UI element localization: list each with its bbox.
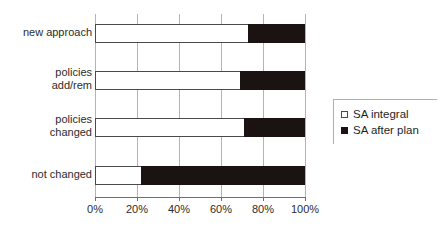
legend-entry-sa-integral: SA integral: [341, 106, 433, 122]
bar-row: [95, 71, 305, 90]
tick-mark-100: [305, 197, 306, 201]
bar-segment-sa-after-plan: [248, 24, 305, 43]
x-tick-label-20: 20%: [117, 203, 157, 216]
x-tick-label-40: 40%: [159, 203, 199, 216]
tick-mark-0: [95, 197, 96, 201]
white-square-icon: [341, 111, 348, 118]
bar-segment-sa-integral: [95, 166, 141, 185]
category-label-not-changed: not changed: [31, 168, 92, 181]
tick-mark-60: [221, 197, 222, 201]
category-label-new-approach: new approach: [23, 26, 92, 39]
bar-segment-sa-integral: [95, 118, 244, 137]
bar-segment-sa-integral: [95, 71, 240, 90]
tick-mark-40: [179, 197, 180, 201]
bar-row: [95, 166, 305, 185]
category-label-policies-changed: policies changed: [50, 113, 92, 139]
stacked-bar-chart: new approach policies add/rem policies c…: [0, 0, 439, 237]
gridline-100: [305, 14, 306, 197]
tick-mark-20: [137, 197, 138, 201]
x-tick-label-100: 100%: [285, 203, 325, 216]
legend-label-sa-after-plan: SA after plan: [353, 123, 419, 137]
bar-segment-sa-integral: [95, 24, 248, 43]
bar-segment-sa-after-plan: [141, 166, 305, 185]
bar-row: [95, 118, 305, 137]
x-tick-label-0: 0%: [75, 203, 115, 216]
tick-mark-80: [263, 197, 264, 201]
x-tick-label-60: 60%: [201, 203, 241, 216]
plot-area: [95, 14, 305, 197]
bar-row: [95, 24, 305, 43]
black-square-icon: [341, 127, 348, 134]
chart-legend: SA integral SA after plan: [333, 99, 437, 144]
bar-segment-sa-after-plan: [240, 71, 305, 90]
bar-segment-sa-after-plan: [244, 118, 305, 137]
x-axis-line: [95, 197, 306, 198]
legend-entry-sa-after-plan: SA after plan: [341, 122, 433, 138]
category-label-policies-add-rem: policies add/rem: [52, 66, 92, 92]
legend-label-sa-integral: SA integral: [353, 107, 409, 121]
x-tick-label-80: 80%: [243, 203, 283, 216]
